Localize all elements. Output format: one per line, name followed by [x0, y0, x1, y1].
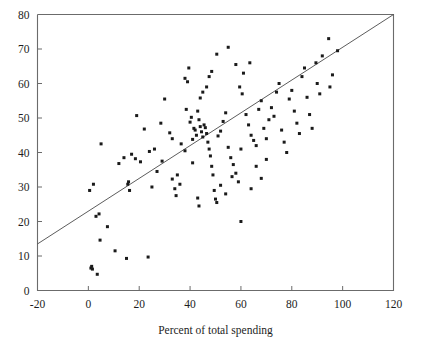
data-point	[100, 142, 103, 145]
data-point	[203, 123, 206, 126]
y-tick-label-1: 10	[18, 250, 30, 262]
data-point	[183, 77, 186, 80]
data-point	[219, 130, 222, 133]
data-point	[176, 173, 179, 176]
data-point	[248, 61, 251, 64]
data-point	[205, 85, 208, 88]
data-point	[139, 160, 142, 163]
data-point	[191, 161, 194, 164]
data-point	[262, 127, 265, 130]
data-point	[272, 115, 275, 118]
data-point	[128, 189, 131, 192]
data-point	[205, 132, 208, 135]
data-point	[316, 82, 319, 85]
data-point	[260, 177, 263, 180]
data-point	[148, 150, 151, 153]
data-point	[224, 192, 227, 195]
x-axis-title: Percent of total spending	[158, 324, 273, 337]
data-point	[171, 178, 174, 181]
plot-frame	[38, 15, 394, 291]
data-point	[159, 122, 162, 125]
data-point	[239, 220, 242, 223]
data-point	[150, 186, 153, 189]
x-tick-label-4: 60	[235, 298, 247, 310]
data-point	[239, 148, 242, 151]
data-point	[219, 184, 222, 187]
data-point	[224, 111, 227, 114]
data-point	[311, 127, 314, 130]
x-tick-label-3: 40	[184, 298, 196, 310]
data-point	[96, 273, 99, 276]
data-point	[163, 98, 166, 101]
x-tick-label-0: -20	[30, 298, 46, 310]
data-point	[318, 92, 321, 95]
data-point	[232, 163, 235, 166]
data-point	[215, 201, 218, 204]
data-point	[91, 268, 94, 271]
data-point	[255, 165, 258, 168]
data-point	[168, 131, 171, 134]
y-tick-label-2: 20	[18, 216, 30, 228]
data-point	[183, 149, 186, 152]
data-point	[280, 129, 283, 132]
data-point	[200, 130, 203, 133]
data-point	[187, 66, 190, 69]
data-point	[238, 85, 241, 88]
data-point	[300, 75, 303, 78]
data-point	[213, 189, 216, 192]
data-point	[189, 121, 192, 124]
data-point	[306, 96, 309, 99]
data-point	[237, 180, 240, 183]
y-tick-label-3: 30	[18, 181, 30, 193]
data-point	[185, 108, 188, 111]
data-point	[208, 75, 211, 78]
data-point	[173, 187, 176, 190]
data-point	[245, 113, 248, 116]
data-point	[295, 122, 298, 125]
data-point	[147, 256, 150, 259]
data-point	[178, 183, 181, 186]
data-point	[94, 215, 97, 218]
x-tick-label-6: 100	[334, 298, 352, 310]
data-point	[204, 126, 207, 129]
y-tick-label-5: 50	[18, 112, 30, 124]
x-tick-label-1: 0	[85, 298, 91, 310]
data-point	[180, 142, 183, 145]
data-point	[201, 91, 204, 94]
data-point	[275, 91, 278, 94]
data-point	[227, 146, 230, 149]
data-point	[195, 134, 198, 137]
data-point	[336, 49, 339, 52]
data-point	[208, 148, 211, 151]
scatter-chart: 01020304050607080-20020406080100120Perce…	[0, 0, 422, 347]
data-point	[231, 175, 234, 178]
data-point	[92, 183, 95, 186]
data-point	[156, 170, 159, 173]
data-point	[298, 132, 301, 135]
data-point	[265, 137, 268, 140]
data-point	[331, 73, 334, 76]
y-tick-label-0: 0	[24, 285, 30, 297]
data-point	[191, 138, 194, 141]
data-point	[196, 197, 199, 200]
data-point	[252, 139, 255, 142]
data-point	[278, 82, 281, 85]
data-point	[267, 118, 270, 121]
data-point	[288, 98, 291, 101]
chart-canvas: 01020304050607080-20020406080100120Perce…	[0, 0, 422, 347]
data-point	[209, 154, 212, 157]
data-point	[143, 128, 146, 131]
data-point	[153, 148, 156, 151]
data-points	[88, 37, 339, 276]
data-point	[206, 141, 209, 144]
data-point	[260, 99, 263, 102]
x-axis: -20020406080100120	[30, 286, 403, 310]
data-point	[196, 110, 199, 113]
data-point	[171, 137, 174, 140]
data-point	[327, 37, 330, 40]
data-point	[321, 54, 324, 57]
data-point	[199, 125, 202, 128]
data-point	[234, 172, 237, 175]
data-point	[194, 129, 197, 132]
data-point	[303, 66, 306, 69]
